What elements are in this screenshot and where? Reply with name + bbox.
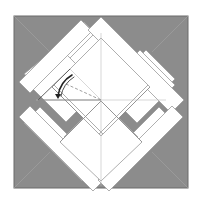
origami-diagram [0,0,199,197]
